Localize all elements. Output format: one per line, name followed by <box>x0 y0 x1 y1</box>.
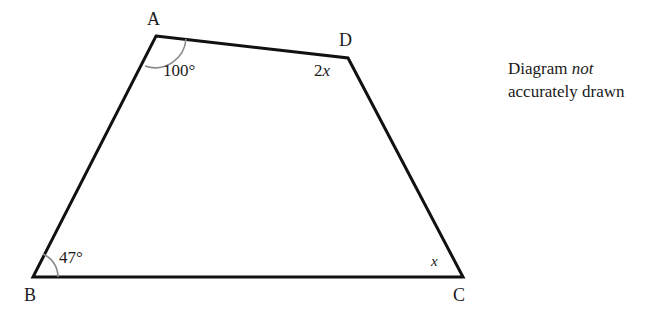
quadrilateral-outline <box>33 36 463 277</box>
note-line-1-prefix: Diagram <box>508 59 572 78</box>
note-line-1: Diagram not <box>508 58 625 81</box>
angle-label-c: x <box>431 254 438 269</box>
angle-label-d-coefficient: 2 <box>314 61 323 80</box>
vertex-label-c: C <box>453 286 465 304</box>
not-accurately-drawn-note: Diagram not accurately drawn <box>508 58 625 104</box>
note-line-1-emphasis: not <box>572 59 594 78</box>
angle-arc-b <box>43 254 58 277</box>
vertex-label-a: A <box>147 10 160 28</box>
quadrilateral-figure <box>0 0 653 316</box>
note-line-2: accurately drawn <box>508 81 625 104</box>
angle-label-b: 47° <box>59 249 83 266</box>
angle-label-a: 100° <box>163 62 195 79</box>
vertex-label-d: D <box>339 31 352 49</box>
vertex-label-b: B <box>24 286 36 304</box>
diagram-canvas: A D B C 100° 47° 2x x Diagram not accura… <box>0 0 653 316</box>
angle-label-d-variable: x <box>323 61 331 80</box>
angle-label-d: 2x <box>314 62 330 79</box>
